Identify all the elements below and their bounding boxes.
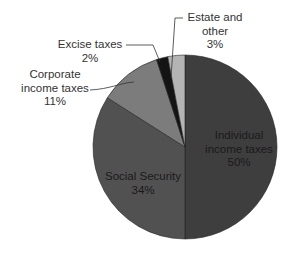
label-estate-line2: other	[183, 25, 247, 39]
pie-chart	[0, 0, 293, 253]
label-social-security: Social Security 34%	[98, 170, 188, 197]
label-excise-line1: Excise taxes	[55, 38, 125, 52]
label-social-pct: 34%	[98, 184, 188, 198]
label-individual-line1: Individual	[196, 129, 282, 143]
label-social-line1: Social Security	[98, 170, 188, 184]
label-corporate: Corporate income taxes 11%	[15, 68, 95, 109]
label-excise: Excise taxes 2%	[55, 38, 125, 65]
label-corporate-line2: income taxes	[15, 82, 95, 96]
label-corporate-line1: Corporate	[15, 68, 95, 82]
label-individual-line2: income taxes	[196, 143, 282, 157]
label-individual: Individual income taxes 50%	[196, 129, 282, 170]
label-estate: Estate and other 3%	[183, 11, 247, 52]
label-excise-pct: 2%	[55, 52, 125, 66]
leader-line-excise	[126, 45, 160, 62]
label-individual-pct: 50%	[196, 156, 282, 170]
label-estate-pct: 3%	[183, 38, 247, 52]
label-estate-line1: Estate and	[183, 11, 247, 25]
label-corporate-pct: 11%	[15, 95, 95, 109]
